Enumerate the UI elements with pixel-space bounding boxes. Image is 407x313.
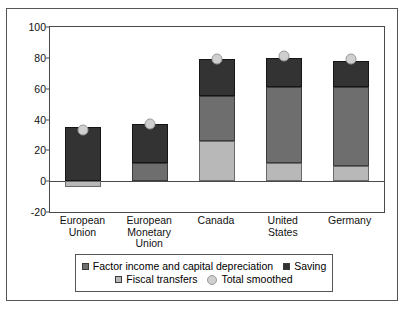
x-axis-label-line: States <box>249 227 316 239</box>
y-axis-tick-mark <box>46 119 50 120</box>
legend-label: Total smoothed <box>221 273 292 286</box>
legend-item-saving: Saving <box>283 260 326 273</box>
bar-segment[interactable] <box>266 58 302 87</box>
bar-segment[interactable] <box>333 87 369 166</box>
y-axis-tick-mark <box>46 27 50 28</box>
bar-segment[interactable] <box>333 166 369 181</box>
x-axis-label-line: European <box>116 215 183 227</box>
legend-row-1: Factor income and capital depreciation S… <box>82 260 326 273</box>
bar-segment[interactable] <box>132 124 168 163</box>
y-axis-tick-mark <box>46 181 50 182</box>
total-smoothed-marker <box>212 54 223 65</box>
y-axis-tick-mark <box>46 57 50 58</box>
x-axis-label-line: Union <box>49 227 116 239</box>
total-smoothed-marker <box>145 119 156 130</box>
x-axis-category-label: UnitedStates <box>249 215 316 238</box>
legend-label: Saving <box>294 260 326 273</box>
x-axis-label-line: United <box>249 215 316 227</box>
y-axis-tick-label: 40 <box>34 114 46 125</box>
plot-area: -20020406080100 <box>49 26 385 213</box>
bar-group[interactable] <box>65 27 101 212</box>
x-axis-label-line: Canada <box>183 215 250 227</box>
y-axis-tick-label: -20 <box>31 207 46 218</box>
y-axis-tick-mark <box>46 88 50 89</box>
y-axis-tick-label: 100 <box>28 22 46 33</box>
x-axis-category-label: Germany <box>316 215 383 227</box>
y-axis-tick-label: 20 <box>34 145 46 156</box>
chart-legend: Factor income and capital depreciation S… <box>75 254 333 292</box>
bar-segment[interactable] <box>65 181 101 187</box>
legend-swatch-icon <box>115 276 122 283</box>
y-axis-tick-label: 80 <box>34 53 46 64</box>
legend-label: Fiscal transfers <box>126 273 197 286</box>
legend-item-factor-income: Factor income and capital depreciation <box>82 260 273 273</box>
legend-item-total-smoothed: Total smoothed <box>207 273 292 286</box>
x-axis-category-label: Canada <box>183 215 250 227</box>
x-axis-category-label: EuropeanUnion <box>49 215 116 238</box>
x-axis-label-line: European <box>49 215 116 227</box>
bar-segment[interactable] <box>266 163 302 182</box>
bar-segment[interactable] <box>199 59 235 96</box>
x-axis-category-label: EuropeanMonetaryUnion <box>116 215 183 250</box>
y-axis-tick-label: 60 <box>34 83 46 94</box>
legend-item-fiscal-transfers: Fiscal transfers <box>115 273 197 286</box>
x-axis-label-line: Union <box>116 238 183 250</box>
legend-swatch-icon <box>283 263 290 270</box>
bar-segment[interactable] <box>199 141 235 181</box>
y-axis-tick-mark <box>46 212 50 213</box>
bar-segment[interactable] <box>132 163 168 182</box>
legend-circle-icon <box>207 275 217 285</box>
total-smoothed-marker <box>278 51 289 62</box>
bar-segment[interactable] <box>266 87 302 163</box>
y-axis-tick-mark <box>46 150 50 151</box>
total-smoothed-marker <box>78 125 89 136</box>
legend-label: Factor income and capital depreciation <box>93 260 273 273</box>
legend-swatch-icon <box>82 263 89 270</box>
chart-figure: -20020406080100 EuropeanUnionEuropeanMon… <box>6 8 398 301</box>
x-axis-label-line: Germany <box>316 215 383 227</box>
bar-segment[interactable] <box>199 96 235 141</box>
total-smoothed-marker <box>345 54 356 65</box>
legend-row-2: Fiscal transfers Total smoothed <box>82 273 326 286</box>
